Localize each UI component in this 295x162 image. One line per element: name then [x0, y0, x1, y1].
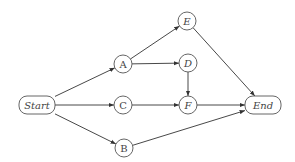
node-start: Start — [19, 96, 55, 114]
node-a: A — [114, 55, 132, 73]
node-f-label: F — [184, 100, 193, 111]
edges-group — [55, 26, 255, 145]
edge-start-to-b — [55, 114, 116, 144]
node-b-label: B — [120, 143, 127, 154]
node-a-label: A — [118, 59, 127, 70]
node-c-label: C — [119, 100, 127, 111]
edge-e-to-end — [193, 28, 255, 96]
node-e-label: E — [182, 16, 191, 27]
edge-a-to-d — [132, 63, 179, 64]
network-diagram: StartACBEDFEnd — [0, 0, 295, 162]
node-b: B — [115, 139, 133, 157]
node-c: C — [114, 96, 132, 114]
edge-a-to-e — [130, 26, 179, 59]
node-end-label: End — [252, 100, 273, 111]
edge-start-to-a — [55, 68, 115, 97]
edge-b-to-end — [133, 111, 245, 146]
node-d: D — [179, 54, 197, 72]
nodes-group: StartACBEDFEnd — [19, 12, 281, 157]
node-d-label: D — [183, 58, 192, 69]
node-e: E — [178, 12, 196, 30]
node-end: End — [245, 96, 281, 114]
node-start-label: Start — [24, 100, 51, 111]
node-f: F — [179, 96, 197, 114]
